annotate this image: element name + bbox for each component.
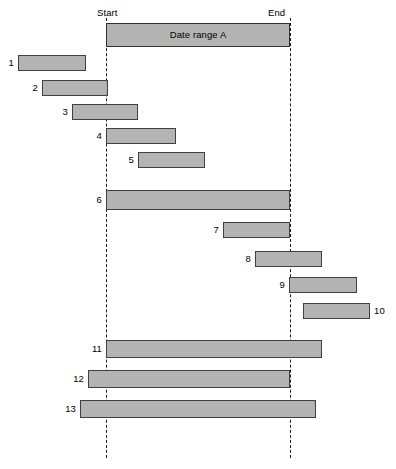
range-bar-label: 2	[20, 83, 38, 93]
range-bar-label: 12	[66, 374, 84, 384]
range-bar	[18, 55, 86, 71]
range-bar	[88, 370, 290, 388]
range-bar-label: 5	[116, 155, 134, 165]
range-bar	[42, 80, 108, 96]
range-bar-label: 10	[374, 306, 385, 316]
end-axis-label: End	[268, 8, 285, 18]
range-bar-label: 13	[58, 404, 76, 414]
range-bar	[223, 222, 290, 238]
range-bar	[106, 128, 176, 144]
range-bar-label: 1	[0, 58, 14, 68]
range-bar	[138, 152, 205, 168]
range-bar	[303, 303, 370, 319]
range-bar	[106, 190, 290, 210]
range-bar-label: 3	[50, 107, 68, 117]
date-range-chart: Start End Date range A 12345678910111213	[0, 0, 396, 469]
start-axis-label: Start	[97, 8, 118, 18]
range-bar	[80, 400, 316, 418]
range-bar-label: 4	[84, 131, 102, 141]
range-bar-label: 7	[201, 225, 219, 235]
date-range-header-bar: Date range A	[106, 23, 290, 47]
range-bar	[72, 104, 138, 120]
range-bar-label: 9	[267, 280, 285, 290]
range-bar-label: 6	[84, 195, 102, 205]
range-bar	[255, 251, 322, 267]
range-bar-label: 11	[84, 344, 102, 354]
end-guide-line	[290, 18, 291, 458]
range-bar	[289, 277, 357, 293]
range-bar	[106, 340, 322, 358]
date-range-header-label: Date range A	[170, 30, 227, 40]
range-bar-label: 8	[233, 254, 251, 264]
